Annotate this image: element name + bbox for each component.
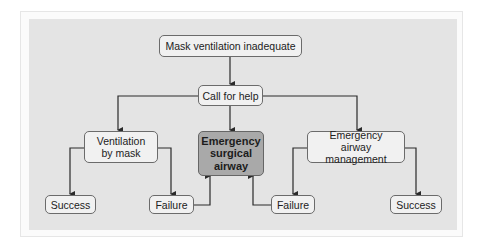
node-failure-right: Failure [271, 195, 315, 214]
edge-emergency-failure [293, 148, 307, 194]
node-label: Call for help [202, 90, 258, 102]
node-label: Failure [277, 199, 309, 211]
node-success-right: Success [390, 195, 442, 214]
edge-failure-right-surgical [253, 176, 271, 205]
edge-mask-success [70, 148, 84, 194]
node-label: Emergency surgical airway [201, 135, 260, 173]
node-mask-ventilation-inadequate: Mask ventilation inadequate [159, 35, 302, 57]
node-label: Failure [155, 199, 187, 211]
node-label: Emergency airway management [314, 129, 398, 165]
node-emergency-airway-management: Emergency airway management [307, 131, 405, 163]
node-emergency-surgical-airway: Emergency surgical airway [198, 131, 264, 176]
node-failure-left: Failure [149, 195, 194, 214]
node-ventilation-by-mask: Ventilation by mask [84, 131, 158, 163]
edge-failure-left-surgical [194, 176, 210, 205]
edge-help-mask [118, 96, 198, 130]
node-label: Mask ventilation inadequate [165, 40, 295, 52]
edge-emergency-success [405, 148, 416, 194]
node-success-left: Success [45, 195, 96, 214]
node-label: Ventilation by mask [93, 135, 149, 159]
edge-help-emergency [263, 96, 357, 130]
edge-mask-failure [158, 148, 171, 194]
node-label: Success [396, 199, 436, 211]
node-label: Success [51, 199, 91, 211]
node-call-for-help: Call for help [198, 85, 263, 106]
